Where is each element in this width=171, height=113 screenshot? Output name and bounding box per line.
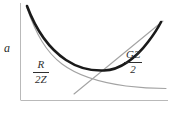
curve-linear-term xyxy=(74,21,163,94)
plot-area xyxy=(0,0,171,113)
label-r-over-2z-denominator: 2Z xyxy=(33,74,49,86)
label-gz-over-2-denominator: 2 xyxy=(124,64,142,76)
label-r-over-2z-numerator: R xyxy=(33,59,49,71)
label-gz-over-2-numerator: GZ xyxy=(124,49,142,61)
y-axis-label: a xyxy=(4,42,10,54)
label-gz-over-2: GZ 2 xyxy=(124,49,142,75)
label-r-over-2z: R 2Z xyxy=(33,59,49,85)
figure-container: a R 2Z GZ 2 xyxy=(0,0,171,113)
